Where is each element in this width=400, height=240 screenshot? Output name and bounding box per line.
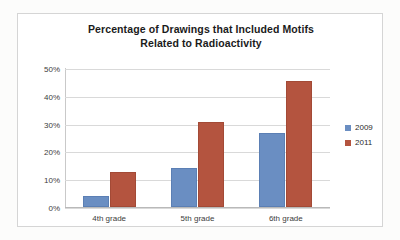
chart-title: Percentage of Drawings that Included Mot… — [48, 22, 354, 50]
bar-2011-4th-grade — [110, 172, 136, 207]
y-axis-tick-label: 30% — [44, 120, 60, 129]
legend-item-2011: 2011 — [345, 139, 373, 147]
legend-label: 2011 — [355, 139, 372, 147]
legend-swatch-icon — [345, 125, 351, 131]
chart-title-line-1: Percentage of Drawings that Included Mot… — [48, 22, 354, 36]
x-axis-tick-label: 6th grade — [269, 214, 303, 223]
chart-image: Percentage of Drawings that Included Mot… — [0, 0, 400, 240]
chart-legend: 20092011 — [345, 124, 373, 154]
legend-swatch-icon — [345, 140, 351, 146]
legend-label: 2009 — [355, 124, 373, 132]
gridline — [65, 208, 330, 209]
chart-frame: Percentage of Drawings that Included Mot… — [17, 13, 383, 227]
y-axis-tick-label: 20% — [44, 148, 60, 157]
bar-2009-4th-grade — [83, 196, 109, 207]
y-axis-line — [65, 68, 66, 208]
bar-2011-5th-grade — [198, 122, 224, 207]
y-axis-tick-label: 40% — [44, 92, 60, 101]
x-axis-tick-label: 4th grade — [92, 214, 126, 223]
bar-2011-6th-grade — [286, 81, 312, 207]
legend-item-2009: 2009 — [345, 124, 373, 132]
bar-2009-5th-grade — [171, 168, 197, 207]
y-axis-tick-label: 10% — [44, 176, 60, 185]
chart-title-line-2: Related to Radioactivity — [48, 36, 354, 50]
y-axis-tick-label: 0% — [48, 204, 60, 213]
gridline — [65, 69, 330, 70]
bar-2009-6th-grade — [259, 133, 285, 207]
x-axis-tick-label: 5th grade — [181, 214, 215, 223]
y-axis-tick-label: 50% — [44, 65, 60, 74]
plot-area: 0%10%20%30%40%50% 4th grade5th grade6th … — [65, 68, 330, 208]
